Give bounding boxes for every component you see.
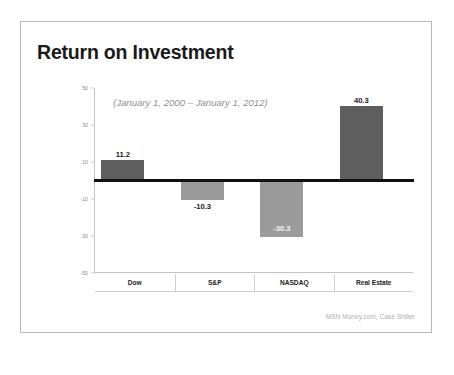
- y-tick-label: -50: [81, 270, 89, 276]
- y-tick-label: -30: [81, 233, 89, 239]
- y-tick-label: 10: [82, 159, 88, 165]
- bar-s-p[interactable]: [181, 181, 224, 200]
- category-axis-labels: DowS&PNASDAQReal Estate: [95, 274, 413, 292]
- bar-value-label: -10.3: [181, 202, 224, 211]
- y-tick-label: -10: [81, 196, 89, 202]
- y-axis: 503010-10-30-50: [69, 88, 91, 273]
- bar-value-label: -30.3: [260, 224, 303, 233]
- category-label-dow: Dow: [95, 274, 175, 291]
- bar-value-label: 40.3: [340, 96, 383, 105]
- plot-area: 11.2-10.3-30.340.3: [95, 88, 413, 273]
- page-title: Return on Investment: [37, 41, 233, 64]
- y-tick-label: 30: [82, 122, 88, 128]
- source-attribution: MSN Money.com, Case Shiller: [326, 313, 415, 320]
- bar-real-estate[interactable]: [340, 106, 383, 181]
- bar-value-label: 11.2: [101, 150, 144, 159]
- slide-frame: Return on Investment 503010-10-30-50 11.…: [20, 21, 432, 333]
- y-tick-label: 50: [82, 85, 88, 91]
- bar-dow[interactable]: [101, 160, 144, 181]
- category-label-real-estate: Real Estate: [334, 274, 414, 291]
- category-label-s-p: S&P: [175, 274, 255, 291]
- category-label-nasdaq: NASDAQ: [254, 274, 334, 291]
- chart-subtitle: (January 1, 2000 – January 1, 2012): [113, 97, 268, 108]
- zero-line: [94, 179, 414, 182]
- roi-bar-chart: 503010-10-30-50 11.2-10.3-30.340.3 (Janu…: [69, 88, 413, 298]
